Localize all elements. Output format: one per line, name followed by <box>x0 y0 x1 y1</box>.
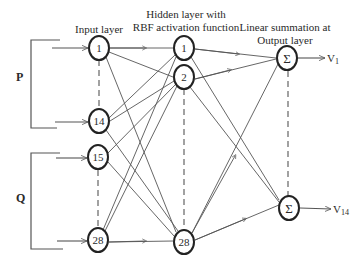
sigma-icon: Σ <box>285 201 293 216</box>
p-bracket <box>31 40 60 128</box>
svg-text:15: 15 <box>93 151 105 163</box>
hidden-node-28: 28 <box>174 230 194 254</box>
output-v14-label: V14 <box>333 203 349 217</box>
input-layer-label: Input layer <box>75 23 123 35</box>
q-bracket <box>31 153 63 249</box>
hidden-node-2: 2 <box>174 65 194 89</box>
input-hidden-connections <box>103 48 178 242</box>
hidden-output-connections <box>190 49 279 240</box>
input-node-28: 28 <box>88 228 108 252</box>
input-node-1: 1 <box>89 36 109 60</box>
sigma-icon: Σ <box>283 51 291 66</box>
dashed-separators <box>98 60 288 230</box>
svg-text:2: 2 <box>181 71 187 83</box>
hidden-layer-label-line1: Hidden layer with <box>146 8 226 20</box>
output-layer-label-line1: Linear summation at <box>239 21 330 33</box>
svg-text:28: 28 <box>179 236 191 248</box>
input-node-14: 14 <box>89 109 109 133</box>
rbf-network-diagram: Input layer Hidden layer with RBF activa… <box>0 0 359 268</box>
input-node-15: 15 <box>88 145 108 169</box>
hidden-layer-label-line2: RBF activation function <box>133 21 240 33</box>
output-node-sum-1: Σ <box>277 46 297 70</box>
output-arrows <box>297 58 331 209</box>
output-layer-label-line2: Output layer <box>257 34 313 46</box>
svg-text:28: 28 <box>93 234 105 246</box>
q-group-label: Q <box>16 191 25 205</box>
input-arrows <box>52 48 88 241</box>
hidden-node-1: 1 <box>174 36 194 60</box>
svg-text:1: 1 <box>181 42 187 54</box>
svg-text:14: 14 <box>94 115 106 127</box>
p-group-label: P <box>16 70 23 84</box>
output-node-sum-14: Σ <box>279 196 299 220</box>
svg-text:1: 1 <box>96 42 102 54</box>
output-v1-label: V1 <box>327 52 339 66</box>
